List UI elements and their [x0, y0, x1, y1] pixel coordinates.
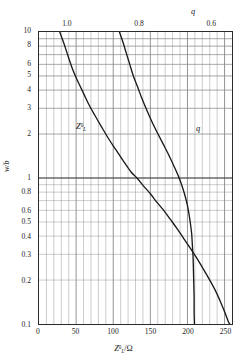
q-tick-label: 0.8 — [134, 20, 144, 28]
plot-area — [38, 31, 233, 325]
y-tick-label: 5 — [27, 72, 31, 80]
x-tick-label: 200 — [182, 328, 193, 336]
y-tick-label: 0.3 — [22, 251, 32, 259]
y-tick-label: 0.1 — [22, 321, 32, 329]
y-tick-label: 6 — [27, 60, 31, 68]
x-tick-label: 100 — [107, 328, 118, 336]
q-tick-label: 1.0 — [62, 20, 72, 28]
y-tick-label: 3 — [27, 104, 31, 112]
y-tick-label: 2 — [27, 130, 31, 138]
curve-svg — [39, 32, 232, 324]
y-tick-label: 0.4 — [22, 233, 32, 241]
curve-label-q: q — [196, 124, 200, 133]
x-tick-label: 250 — [220, 328, 231, 336]
x-tick-label: 0 — [36, 328, 40, 336]
curve-label-z: Z0L — [76, 122, 86, 132]
x-axis-tick-labels: 050100150200250 — [38, 328, 233, 342]
y-tick-label: 0.5 — [22, 219, 32, 227]
y-tick-label: 4 — [27, 86, 31, 94]
series-0 — [60, 32, 230, 324]
y-axis-title: w/b — [2, 160, 11, 172]
y-tick-label: 8 — [27, 41, 31, 49]
q-axis-title: q — [191, 7, 195, 16]
y-tick-label: 10 — [23, 27, 31, 35]
figure-root: 1.00.80.6 q Z0L q 1086543210.80.60.50.40… — [0, 0, 247, 364]
x-tick-label: 50 — [72, 328, 80, 336]
y-tick-label: 1 — [27, 174, 31, 182]
y-tick-label: 0.8 — [22, 188, 32, 196]
x-axis-title: Z0L/Ω — [0, 344, 247, 354]
y-tick-label: 0.6 — [22, 207, 32, 215]
x-tick-label: 150 — [145, 328, 156, 336]
y-axis-tick-labels: 1086543210.80.60.50.40.30.20.1 — [0, 31, 35, 325]
curve-layer — [39, 32, 232, 324]
q-tick-label: 0.6 — [207, 20, 217, 28]
series-1 — [119, 32, 194, 324]
y-tick-label: 0.2 — [22, 277, 32, 285]
